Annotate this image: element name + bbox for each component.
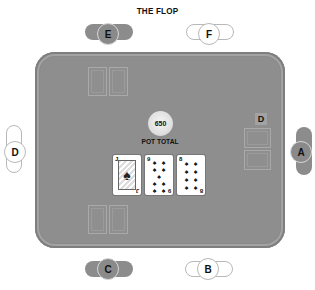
- card-rank: 9: [168, 188, 171, 194]
- spade-pips-icon: ♠♠ ♠♠ ♠ ♠♠ ♠♠: [150, 159, 168, 191]
- card-rank: 8: [200, 188, 203, 194]
- seat-e-hole-card-2: [109, 67, 128, 96]
- seat-d-marker[interactable]: D: [4, 141, 26, 163]
- seat-a-hole-card-2: [244, 150, 271, 170]
- seat-a-hole-card-1: [244, 128, 271, 148]
- pot-total-label: POT TOTAL: [132, 138, 189, 145]
- seat-c-hole-card-2: [109, 205, 128, 234]
- seat-c-hole-card-1: [88, 205, 107, 234]
- card-rank: J: [136, 188, 139, 194]
- community-card-2: 9 ♠♠ ♠♠ ♠ ♠♠ ♠♠ 9: [145, 155, 173, 195]
- seat-e-marker[interactable]: E: [97, 23, 119, 45]
- pot-chip: 650: [148, 111, 173, 136]
- seat-a-marker[interactable]: A: [290, 141, 312, 163]
- community-card-3: 8 ♠♠ ♠♠ ♠♠ ♠♠ 8: [177, 155, 205, 195]
- seat-f-marker[interactable]: F: [198, 23, 220, 45]
- seat-c-marker[interactable]: C: [97, 258, 119, 280]
- jack-face-icon: ♠: [118, 160, 136, 190]
- spade-pips-icon: ♠♠ ♠♠ ♠♠ ♠♠: [182, 159, 200, 191]
- dealer-button: D: [255, 113, 267, 125]
- community-card-1: J ♠ J: [113, 155, 141, 195]
- seat-e-hole-card-1: [88, 67, 107, 96]
- seat-b-marker[interactable]: B: [197, 258, 219, 280]
- page-title: THE FLOP: [16, 6, 300, 16]
